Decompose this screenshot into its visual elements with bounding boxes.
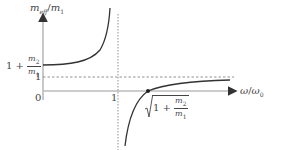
x-axis-label: ω/ω0 <box>240 86 264 98</box>
y-tick-one: 1 <box>35 72 41 82</box>
curve-left-branch <box>43 8 110 65</box>
zero-crossing-point <box>146 89 150 93</box>
effective-mass-diagram <box>0 0 285 150</box>
y-tick-zero: 0 <box>35 93 41 103</box>
x-tick-one: 1 <box>111 93 117 103</box>
y-axis-label: meff/m1 <box>30 3 64 15</box>
zero-crossing-label: 1 + m2m1 <box>145 95 189 119</box>
